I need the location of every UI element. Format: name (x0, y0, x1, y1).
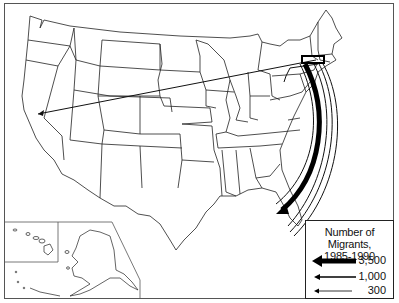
migration-flows (38, 56, 338, 236)
legend-row-thin: 300 (312, 285, 390, 297)
legend: Number of Migrants, 1985-1990 3,500 1,00… (305, 220, 394, 299)
state-borders (22, 10, 342, 250)
legend-row-thick: 3,500 (312, 255, 390, 267)
flow-to-florida-thick (282, 64, 319, 210)
medium-arrow-icon (312, 271, 362, 283)
thin-arrow-icon (312, 285, 362, 297)
legend-value-medium: 1,000 (358, 270, 386, 282)
alaska-inset (15, 230, 138, 296)
inset-frames (5, 222, 140, 299)
legend-value-thin: 300 (368, 284, 386, 296)
legend-value-thick: 3,500 (358, 254, 386, 266)
flow-to-california (38, 60, 316, 114)
hawaii-inset (13, 229, 53, 255)
legend-title-line1: Number of Migrants, (306, 226, 393, 250)
thick-arrow-icon (312, 255, 362, 267)
legend-row-medium: 1,000 (312, 271, 390, 283)
arrowhead-california (38, 110, 44, 116)
